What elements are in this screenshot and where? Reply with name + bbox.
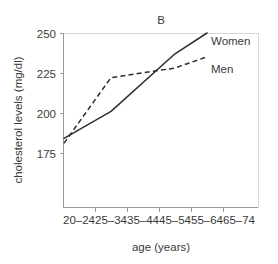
y-tick-label-225: 225: [37, 68, 56, 80]
x-tick-label-20-24: 20–24: [63, 214, 96, 226]
x-tick-label-35-44: 35–44: [127, 214, 160, 226]
chart-page: 250 225 200 175 20–24 25–34 35–44 45–54 …: [0, 0, 278, 264]
plot-axes: [64, 34, 259, 208]
x-tick-marks: [96, 208, 224, 212]
series-label-men: Men: [211, 63, 233, 75]
plot-frame-outer: [64, 34, 259, 208]
y-tick-label-175: 175: [37, 148, 56, 160]
series-label-women: Women: [211, 35, 250, 47]
cholesterol-line-chart: 250 225 200 175 20–24 25–34 35–44 45–54 …: [0, 0, 278, 264]
panel-label: B: [157, 14, 165, 26]
x-tick-label-65-74: 65–74: [223, 214, 256, 226]
x-tick-label-55-64: 55–64: [191, 214, 224, 226]
y-axis-title: cholesterol levels (mg/dl): [12, 56, 24, 183]
y-tick-label-250: 250: [37, 28, 56, 40]
x-axis-title: age (years): [132, 241, 190, 253]
x-tick-label-25-34: 25–34: [95, 214, 128, 226]
series-line-men: [64, 57, 207, 143]
x-tick-label-45-54: 45–54: [159, 214, 192, 226]
series-line-women: [64, 33, 207, 138]
y-tick-label-200: 200: [37, 108, 56, 120]
y-tick-marks: [60, 34, 64, 154]
